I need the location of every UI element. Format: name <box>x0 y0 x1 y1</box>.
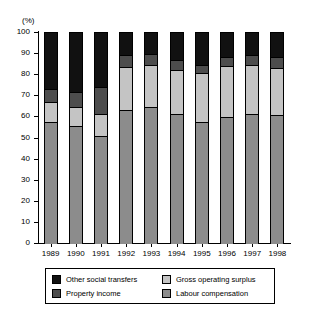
bar-segment <box>271 33 283 58</box>
legend-item-label: Gross operating surplus <box>176 275 256 284</box>
bar-segment <box>196 33 208 66</box>
y-axis-tick-label: 30 <box>4 175 30 184</box>
bar-segment <box>171 61 183 70</box>
bar-1989 <box>44 32 58 243</box>
bar-segment <box>70 127 82 244</box>
bar-segment <box>145 108 157 244</box>
bar-1994 <box>170 32 184 243</box>
bar-segment <box>95 137 107 244</box>
bar-segment <box>120 68 132 111</box>
bar-segment <box>45 90 57 103</box>
bar-1991 <box>94 32 108 243</box>
bar-segment <box>271 69 283 116</box>
legend-item-labour_compensation: Labour compensation <box>162 289 268 298</box>
bar-segment <box>145 55 157 66</box>
legend-swatch-icon <box>162 289 171 298</box>
legend-item-other_social_transfers: Other social transfers <box>52 275 158 284</box>
bar-1997 <box>245 32 259 243</box>
y-axis-tick-label: 50 <box>4 133 30 142</box>
bar-segment <box>271 58 283 69</box>
bar-segment <box>246 33 258 56</box>
bar-segment <box>95 33 107 88</box>
bar-segment <box>196 123 208 244</box>
y-axis-tick <box>34 138 38 139</box>
legend-item-label: Other social transfers <box>66 275 137 284</box>
legend-item-label: Labour compensation <box>176 289 248 298</box>
y-axis-tick-label: 70 <box>4 90 30 99</box>
bar-segment <box>246 115 258 244</box>
bar-segment <box>120 111 132 244</box>
bar-segment <box>246 56 258 65</box>
legend-swatch-icon <box>162 275 171 284</box>
bar-1995 <box>195 32 209 243</box>
bar-segment <box>70 108 82 127</box>
y-axis-tick <box>34 222 38 223</box>
bar-segment <box>221 67 233 119</box>
bar-segment <box>221 33 233 58</box>
y-axis-tick <box>34 243 38 244</box>
bar-segment <box>45 123 57 244</box>
bar-segment <box>45 103 57 123</box>
y-axis-tick-label: 100 <box>4 27 30 36</box>
bar-segment <box>95 88 107 115</box>
y-axis-tick <box>34 201 38 202</box>
bar-segment <box>171 71 183 115</box>
plot-area: 0102030405060708090100198919901991199219… <box>38 32 290 243</box>
bar-segment <box>45 33 57 90</box>
bar-segment <box>221 58 233 66</box>
bar-segment <box>70 33 82 93</box>
bar-segment <box>196 74 208 123</box>
bar-1998 <box>270 32 284 243</box>
y-axis-tick <box>34 159 38 160</box>
bar-segment <box>246 66 258 116</box>
bar-segment <box>271 116 283 244</box>
y-axis-tick-label: 10 <box>4 217 30 226</box>
legend-swatch-icon <box>52 275 61 284</box>
bar-1990 <box>69 32 83 243</box>
y-axis-tick <box>34 53 38 54</box>
y-axis-tick-label: 20 <box>4 196 30 205</box>
bar-segment <box>171 33 183 61</box>
bar-1996 <box>220 32 234 243</box>
bar-segment <box>95 115 107 137</box>
y-axis-tick <box>34 180 38 181</box>
stacked-bar-chart: (%) 010203040506070809010019891990199119… <box>0 0 318 316</box>
bar-segment <box>120 33 132 56</box>
bar-1992 <box>119 32 133 243</box>
legend-item-gross_operating_surplus: Gross operating surplus <box>162 275 268 284</box>
y-axis-tick <box>34 32 38 33</box>
y-axis-tick <box>34 95 38 96</box>
y-axis-tick-label: 40 <box>4 154 30 163</box>
x-axis-tick-label: 1998 <box>262 249 292 258</box>
y-axis-tick-label: 0 <box>4 238 30 247</box>
y-axis-tick-label: 60 <box>4 111 30 120</box>
chart-legend: Other social transfersGross operating su… <box>45 268 275 304</box>
bar-segment <box>221 118 233 244</box>
bar-segment <box>145 33 157 55</box>
y-axis-tick <box>34 116 38 117</box>
bar-segment <box>120 56 132 68</box>
legend-item-property_income: Property income <box>52 289 158 298</box>
y-axis-tick-label: 80 <box>4 69 30 78</box>
y-axis-tick-label: 90 <box>4 48 30 57</box>
y-axis-tick <box>34 74 38 75</box>
bar-1993 <box>144 32 158 243</box>
legend-swatch-icon <box>52 289 61 298</box>
legend-item-label: Property income <box>66 289 121 298</box>
bar-segment <box>70 93 82 108</box>
bar-segment <box>196 66 208 74</box>
bar-segment <box>171 115 183 244</box>
bar-segment <box>145 66 157 108</box>
y-axis-unit-label: (%) <box>22 16 34 25</box>
